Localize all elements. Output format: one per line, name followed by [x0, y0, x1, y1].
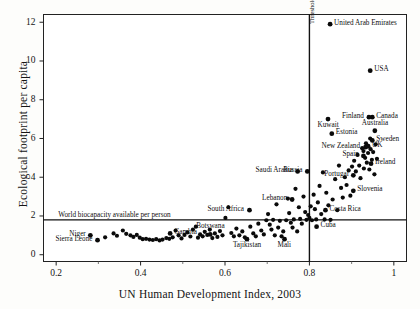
data-point-labeled — [95, 238, 100, 243]
y-tick-label: 8 — [10, 94, 36, 104]
data-point-labeled — [323, 208, 328, 213]
data-point — [240, 229, 244, 233]
data-point-label: Lebanon — [262, 195, 287, 202]
y-tick-label: 12 — [10, 17, 36, 27]
data-point — [248, 225, 252, 229]
data-point — [357, 164, 361, 168]
data-point — [367, 167, 371, 171]
data-point-label: Saudi Arabia — [256, 167, 293, 174]
data-point-label: Sierra Leone — [56, 236, 93, 243]
data-point — [237, 233, 241, 237]
y-tick-label: 6 — [10, 133, 36, 143]
data-point-labeled — [366, 144, 371, 149]
data-point-label: Mali — [278, 242, 292, 249]
data-point — [115, 234, 119, 238]
y-tick-label: 4 — [10, 172, 36, 182]
data-point-labeled — [305, 169, 310, 174]
data-point — [276, 225, 280, 229]
data-point — [273, 233, 277, 237]
data-point-label: Australia — [362, 120, 388, 127]
data-point — [281, 229, 285, 233]
y-tick-label: 0 — [10, 249, 36, 259]
data-point — [297, 205, 301, 209]
data-point — [262, 232, 266, 236]
data-point — [313, 207, 317, 211]
data-point-labeled — [369, 161, 374, 166]
data-point — [295, 229, 299, 233]
data-point-label: Gambia — [174, 229, 197, 236]
data-point — [234, 226, 238, 230]
data-point-labeled — [329, 131, 334, 136]
plot-frame — [44, 15, 407, 262]
data-point — [366, 151, 370, 155]
data-point — [348, 194, 352, 198]
data-point-labeled — [351, 188, 356, 193]
data-point-label: United Arab Emirates — [334, 20, 397, 27]
data-point — [354, 169, 358, 173]
data-point — [290, 225, 294, 229]
biocapacity-annotation-label: World biocapacity available per person — [58, 211, 170, 219]
data-point — [284, 218, 288, 222]
hdi-threshold-annotation-label: Threshold for high human development — [308, 0, 315, 24]
data-point — [316, 200, 320, 204]
data-point — [264, 218, 268, 222]
data-point — [256, 222, 260, 226]
data-point — [337, 164, 341, 168]
data-point — [358, 176, 362, 180]
data-point-labeled — [247, 208, 252, 213]
data-point — [309, 204, 313, 208]
data-point-label: Costa Rica — [329, 206, 360, 213]
data-point — [361, 149, 365, 153]
data-point — [341, 195, 345, 199]
data-point — [213, 231, 217, 235]
data-point-labeled — [361, 154, 366, 159]
data-point-label: Ireland — [375, 159, 395, 166]
data-point — [215, 235, 219, 239]
data-point-labeled — [351, 173, 356, 178]
data-point — [220, 233, 224, 237]
data-point — [289, 221, 293, 225]
data-point — [362, 166, 366, 170]
data-point-labeled — [208, 232, 213, 237]
data-point-labeled — [328, 22, 333, 27]
plot-frame-rect — [44, 15, 407, 262]
data-point-labeled — [314, 224, 319, 229]
data-point — [317, 184, 321, 188]
data-point — [223, 216, 227, 220]
data-point — [292, 217, 296, 221]
data-point — [268, 223, 272, 227]
data-point — [121, 228, 125, 232]
data-point-label: Portugal — [324, 171, 348, 178]
data-point-labeled — [168, 231, 173, 236]
data-point — [259, 228, 263, 232]
data-point — [287, 211, 291, 215]
data-point — [179, 236, 183, 240]
data-point — [254, 234, 258, 238]
y-tick-label: 10 — [10, 55, 36, 65]
data-point-label: New Zealand — [322, 143, 361, 150]
data-point — [274, 202, 278, 206]
data-point — [298, 217, 302, 221]
data-point-label: Botswana — [196, 223, 224, 230]
data-point — [331, 197, 335, 201]
data-point — [271, 218, 275, 222]
x-tick-label: 0.4 — [121, 268, 161, 278]
data-point — [352, 159, 356, 163]
data-point — [266, 212, 270, 216]
data-point — [269, 227, 273, 231]
data-point — [229, 231, 233, 235]
data-point — [319, 212, 323, 216]
data-point-label: Slovenia — [357, 186, 382, 193]
data-point — [365, 161, 369, 165]
data-point — [201, 234, 205, 238]
data-point-label: Finland — [342, 113, 364, 120]
data-point — [232, 234, 236, 238]
scatter-plot-figure: UN Human Development Index, 2003 Ecologi… — [0, 0, 420, 309]
data-point — [312, 193, 316, 197]
data-point-label: Spain — [342, 151, 358, 158]
data-point — [314, 217, 318, 221]
data-point — [339, 186, 343, 190]
data-point — [300, 222, 304, 226]
data-point — [370, 158, 374, 162]
data-point — [103, 235, 107, 239]
